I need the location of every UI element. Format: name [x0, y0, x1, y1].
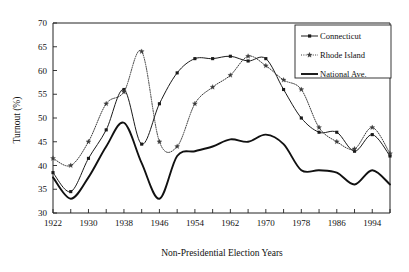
- y-tick-label: 40: [38, 161, 48, 171]
- legend-label-rhode-island: Rhode Island: [320, 50, 366, 60]
- data-point-marker: [86, 139, 91, 144]
- data-point-marker: [68, 163, 73, 168]
- y-tick-label: 45: [38, 137, 48, 147]
- legend-label-connecticut: Connecticut: [320, 31, 362, 41]
- data-point-marker: [139, 49, 144, 54]
- data-point-marker: [300, 116, 303, 119]
- y-tick-label: 35: [38, 184, 48, 194]
- data-point-marker: [370, 125, 375, 130]
- y-axis-title: Turnout (%): [12, 97, 23, 144]
- x-tick-label: 1954: [186, 218, 205, 228]
- legend-label-national-ave: National Ave.: [320, 69, 367, 79]
- x-tick-label: 1978: [292, 218, 311, 228]
- data-point-marker: [263, 63, 268, 68]
- x-axis-ticks: [53, 209, 390, 213]
- data-point-marker: [140, 143, 143, 146]
- data-point-marker: [193, 57, 196, 60]
- chart-legend: ConnecticutRhode IslandNational Ave.: [295, 25, 391, 79]
- data-point-marker: [264, 57, 267, 60]
- data-point-marker: [158, 102, 161, 105]
- data-point-marker: [211, 57, 214, 60]
- x-tick-label: 1922: [44, 218, 62, 228]
- data-point-marker: [371, 133, 374, 136]
- data-point-marker: [335, 131, 338, 134]
- data-point-marker: [157, 139, 162, 144]
- legend-marker-connecticut: [308, 34, 311, 37]
- y-tick-label: 60: [38, 66, 48, 76]
- data-point-marker: [51, 171, 54, 174]
- data-point-marker: [282, 88, 285, 91]
- data-point-marker: [87, 157, 90, 160]
- x-tick-label: 1938: [115, 218, 134, 228]
- chart-canvas: 303540455055606570 192219301938194619541…: [0, 0, 409, 272]
- y-tick-label: 30: [38, 208, 48, 218]
- x-tick-label: 1970: [257, 218, 276, 228]
- data-point-marker: [105, 128, 108, 131]
- x-axis-title: Non-Presidential Election Years: [161, 248, 283, 258]
- x-tick-label: 1994: [363, 218, 382, 228]
- data-point-marker: [229, 55, 232, 58]
- data-point-marker: [210, 85, 215, 90]
- y-axis-ticks: [53, 23, 57, 213]
- data-point-marker: [176, 71, 179, 74]
- data-point-marker: [69, 190, 72, 193]
- y-tick-label: 50: [38, 113, 48, 123]
- x-tick-label: 1986: [328, 218, 347, 228]
- data-point-marker: [318, 131, 321, 134]
- y-axis-tick-labels: 303540455055606570: [38, 18, 48, 218]
- y-tick-label: 65: [38, 42, 48, 52]
- data-point-marker: [334, 139, 339, 144]
- x-tick-label: 1946: [150, 218, 169, 228]
- y-tick-label: 70: [38, 18, 48, 28]
- turnout-line-chart: 303540455055606570 192219301938194619541…: [0, 0, 409, 272]
- x-axis-tick-labels: 1922193019381946195419621970197819861994: [44, 218, 382, 228]
- x-tick-label: 1962: [221, 218, 239, 228]
- data-point-marker: [246, 54, 251, 59]
- x-tick-label: 1930: [79, 218, 98, 228]
- data-point-marker: [317, 125, 322, 130]
- data-point-marker: [247, 59, 250, 62]
- y-tick-label: 55: [38, 89, 48, 99]
